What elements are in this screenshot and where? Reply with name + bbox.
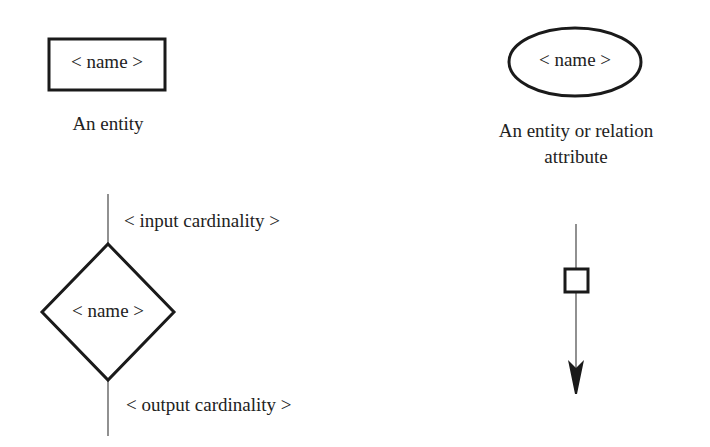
flow-square-icon bbox=[565, 269, 588, 292]
entity-name-label: < name > bbox=[71, 51, 143, 74]
attribute-caption-line1: An entity or relation bbox=[499, 120, 654, 143]
attribute-caption-line2: attribute bbox=[544, 146, 607, 169]
output-cardinality-label: < output cardinality > bbox=[126, 394, 291, 417]
relation-name-label: < name > bbox=[72, 300, 144, 323]
entity-caption: An entity bbox=[72, 113, 143, 136]
attribute-name-label: < name > bbox=[539, 49, 611, 72]
input-cardinality-label: < input cardinality > bbox=[124, 210, 280, 233]
